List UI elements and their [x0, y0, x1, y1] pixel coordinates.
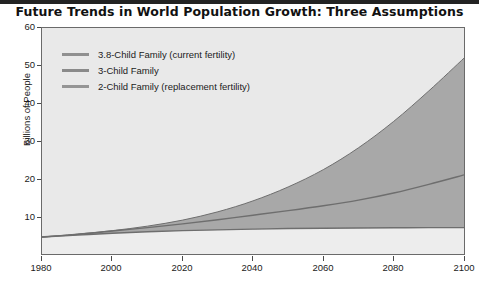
y-tick-label-10: 10 [11, 212, 35, 222]
x-tick-label-2040: 2040 [232, 262, 272, 273]
chart-root: Future Trends in World Population Growth… [0, 0, 479, 288]
x-tick-mark-2020 [182, 256, 183, 261]
legend-label-38-child: 3.8-Child Family (current fertility) [98, 49, 235, 60]
legend-item-0[interactable]: 3.8-Child Family (current fertility) [62, 48, 250, 60]
y-tick-label-40: 40 [11, 98, 35, 108]
legend-swatch-38-child [62, 53, 89, 56]
y-tick-label-60: 60 [11, 22, 35, 32]
legend-item-1[interactable]: 3-Child Family [62, 64, 250, 76]
x-tick-label-2080: 2080 [373, 262, 413, 273]
chart-title: Future Trends in World Population Growth… [0, 4, 479, 19]
x-tick-label-2020: 2020 [162, 262, 202, 273]
x-tick-mark-2060 [323, 256, 324, 261]
legend-swatch-3-child [62, 69, 89, 72]
x-tick-label-2060: 2060 [303, 262, 343, 273]
x-tick-mark-2040 [252, 256, 253, 261]
x-tick-mark-2080 [393, 256, 394, 261]
x-tick-label-2100: 2100 [444, 262, 479, 273]
y-tick-label-30: 30 [11, 136, 35, 146]
legend-item-2[interactable]: 2-Child Family (replacement fertility) [62, 80, 250, 92]
legend-label-2-child: 2-Child Family (replacement fertility) [98, 81, 250, 92]
y-tick-label-20: 20 [11, 174, 35, 184]
x-tick-mark-2000 [111, 256, 112, 261]
y-tick-label-50: 50 [11, 60, 35, 70]
x-tick-mark-1980 [41, 256, 42, 261]
chart-legend: 3.8-Child Family (current fertility) 3-C… [62, 48, 250, 96]
legend-label-3-child: 3-Child Family [98, 65, 159, 76]
legend-swatch-2-child [62, 85, 89, 88]
x-tick-mark-2100 [464, 256, 465, 261]
x-tick-label-2000: 2000 [91, 262, 131, 273]
x-tick-label-1980: 1980 [21, 262, 61, 273]
